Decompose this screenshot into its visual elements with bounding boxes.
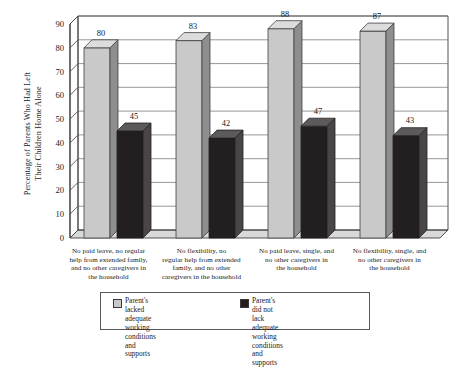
bar-series2-cat1 [117, 123, 151, 238]
data-label-series1-cat4: 87 [362, 13, 392, 21]
category-label-4-line-2: no other caregivers in [338, 256, 441, 265]
y-tick-20: 20 [38, 186, 64, 195]
bar-series1-cat4 [360, 23, 394, 238]
y-tick-60: 60 [38, 91, 64, 100]
bar-series1-cat1 [84, 40, 118, 238]
y-tick-90: 90 [38, 20, 64, 29]
chart-legend: Parent's lacked adequate working conditi… [100, 292, 370, 330]
legend-label-series1: Parent's lacked adequate working conditi… [125, 297, 156, 359]
category-label-3: No paid leave, single, and no other care… [246, 247, 347, 273]
category-label-1-line-3: and no other caregivers in [56, 264, 161, 273]
data-label-series1-cat1: 80 [86, 30, 116, 38]
category-label-2-line-2: regular help from extended [149, 256, 254, 265]
category-label-3-line-3: the household [246, 264, 347, 273]
category-label-4: No flexibility, single, and no other car… [338, 247, 441, 273]
category-label-4-line-1: No flexibility, single, and [338, 247, 441, 256]
category-label-2-line-4: caregivers in the household [149, 273, 254, 282]
category-label-3-line-1: No paid leave, single, and [246, 247, 347, 256]
legend-swatch-light-icon [113, 299, 122, 308]
y-tick-70: 70 [38, 68, 64, 77]
left-wall [70, 16, 78, 238]
y-tick-50: 50 [38, 115, 64, 124]
category-label-1: No paid leave, no regular help from exte… [56, 247, 161, 281]
y-tick-80: 80 [38, 44, 64, 53]
category-label-3-line-2: no other caregivers in [246, 256, 347, 265]
category-label-1-line-4: the household [56, 273, 161, 282]
y-axis-title-line-2: Their Children Home Alone [34, 26, 45, 241]
data-label-series1-cat2: 83 [178, 23, 208, 31]
y-tick-0: 0 [38, 234, 64, 243]
data-label-series1-cat3: 88 [270, 11, 300, 19]
y-tick-10: 10 [38, 210, 64, 219]
data-label-series2-cat2: 42 [211, 120, 241, 128]
data-label-series2-cat4: 43 [395, 117, 425, 125]
category-label-4-line-3: the household [338, 264, 441, 273]
category-label-1-line-2: help from extended family, [56, 256, 161, 265]
category-label-1-line-1: No paid leave, no regular [56, 247, 161, 256]
y-axis-title: Percentage of Parents Who Had Left Their… [23, 26, 44, 241]
legend-swatch-dark-icon [240, 299, 249, 308]
bar-series1-cat2 [176, 33, 210, 238]
bar-series2-cat2 [209, 130, 243, 238]
y-tick-40: 40 [38, 139, 64, 148]
data-label-series2-cat3: 47 [303, 108, 333, 116]
category-label-2-line-3: family, and no other [149, 264, 254, 273]
y-tick-30: 30 [38, 163, 64, 172]
category-label-2: No flexibility, no regular help from ext… [149, 247, 254, 281]
bar-series1-cat3 [268, 21, 302, 238]
data-label-series2-cat1: 45 [119, 113, 149, 121]
bar-series2-cat3 [301, 118, 335, 238]
bar-series2-cat4 [393, 128, 427, 238]
legend-label-series2: Parent's did not lack adequate working c… [252, 297, 283, 368]
y-axis-title-line-1: Percentage of Parents Who Had Left [23, 26, 34, 241]
category-label-2-line-1: No flexibility, no [149, 247, 254, 256]
